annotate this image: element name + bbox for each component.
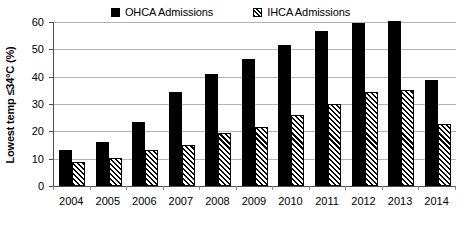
x-tick-mark: [90, 186, 91, 190]
bar-ohca: [315, 31, 328, 186]
bar-ohca: [59, 150, 72, 186]
y-axis-title: Lowest temp ≤34°C (%): [2, 20, 18, 190]
bar-group: [205, 22, 231, 186]
bar-ihca: [145, 150, 158, 186]
bar-group: [388, 22, 414, 186]
bar-group: [169, 22, 195, 186]
bar-ihca: [328, 104, 341, 186]
x-tick-mark: [126, 186, 127, 190]
x-tick-mark: [309, 186, 310, 190]
legend-label-ohca: OHCA Admissions: [125, 7, 213, 18]
y-tick-label: 10: [32, 153, 44, 164]
bar-ohca: [425, 80, 438, 186]
x-tick-label: 2004: [53, 195, 89, 211]
y-axis-title-text: Lowest temp ≤34°C (%): [4, 47, 16, 164]
legend-entry-ohca: OHCA Admissions: [111, 7, 213, 18]
bar-ihca: [218, 133, 231, 186]
bar-ohca: [388, 21, 401, 186]
bar-group: [132, 22, 158, 186]
y-tick-label: 50: [32, 44, 44, 55]
bar-groups: [54, 22, 456, 186]
bar-chart: OHCA Admissions IHCA Admissions Lowest t…: [0, 0, 461, 225]
bar-ohca: [205, 74, 218, 186]
bar-group: [425, 22, 451, 186]
bar-group: [96, 22, 122, 186]
x-tick-label: 2014: [419, 195, 455, 211]
hatched-square-icon: [253, 8, 262, 17]
legend-entry-ihca: IHCA Admissions: [253, 7, 350, 18]
x-tick-label: 2011: [309, 195, 345, 211]
plot-area: 6050403020100: [20, 22, 458, 190]
y-tick-label: 0: [38, 181, 44, 192]
bar-ihca: [182, 145, 195, 186]
x-tick-label: 2005: [90, 195, 126, 211]
bar-ihca: [438, 124, 451, 186]
bar-group: [59, 22, 85, 186]
x-tick-mark: [236, 186, 237, 190]
x-axis-ticks: [53, 186, 455, 192]
bar-ihca: [255, 127, 268, 186]
bar-ihca: [72, 162, 85, 186]
plot-canvas: [53, 22, 456, 186]
bar-group: [278, 22, 304, 186]
y-tick-label: 20: [32, 126, 44, 137]
x-tick-mark: [418, 186, 419, 190]
x-tick-label: 2012: [346, 195, 382, 211]
solid-square-icon: [111, 8, 120, 17]
x-tick-mark: [382, 186, 383, 190]
y-tick-label: 30: [32, 99, 44, 110]
bar-ihca: [109, 158, 122, 186]
bar-group: [315, 22, 341, 186]
x-tick-label: 2009: [236, 195, 272, 211]
bar-ohca: [278, 45, 291, 186]
x-tick-label: 2013: [382, 195, 418, 211]
bar-ohca: [169, 92, 182, 186]
x-tick-mark: [163, 186, 164, 190]
x-tick-mark: [345, 186, 346, 190]
bar-ohca: [96, 142, 109, 186]
x-tick-mark: [199, 186, 200, 190]
x-tick-mark: [53, 186, 54, 190]
x-tick-label: 2010: [272, 195, 308, 211]
x-tick-label: 2008: [199, 195, 235, 211]
bar-group: [352, 22, 378, 186]
bar-ihca: [365, 92, 378, 186]
x-tick-label: 2006: [126, 195, 162, 211]
x-tick-mark: [272, 186, 273, 190]
x-tick-mark: [455, 186, 456, 190]
bar-ohca: [132, 122, 145, 186]
y-axis-ticks: 6050403020100: [20, 22, 48, 186]
bar-ihca: [401, 90, 414, 186]
bar-group: [242, 22, 268, 186]
x-tick-label: 2007: [163, 195, 199, 211]
x-axis-labels: 2004200520062007200820092010201120122013…: [53, 195, 455, 211]
bar-ohca: [352, 23, 365, 186]
bar-ohca: [242, 59, 255, 186]
chart-legend: OHCA Admissions IHCA Admissions: [0, 2, 461, 22]
y-tick-label: 60: [32, 17, 44, 28]
bar-ihca: [291, 115, 304, 186]
y-tick-label: 40: [32, 71, 44, 82]
legend-label-ihca: IHCA Admissions: [267, 7, 350, 18]
